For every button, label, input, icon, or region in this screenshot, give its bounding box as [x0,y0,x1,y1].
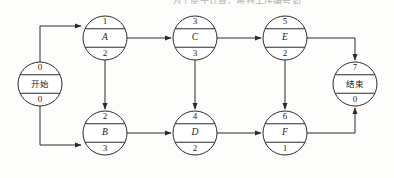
node-top-number: 5 [283,16,288,26]
edge-start-to-b [40,106,81,145]
node-label: C [192,32,199,42]
node-label: B [102,127,108,137]
node-bottom-number: 1 [283,143,288,153]
node-bottom-number: 2 [283,48,288,58]
node-top-number: 4 [193,111,198,121]
network-diagram-svg: 0开始01A23C35E22B34D26F17结束0 [0,0,394,178]
node-top-number: 2 [103,111,108,121]
node-e[interactable]: 5E2 [263,16,307,60]
node-top-number: 7 [353,62,358,72]
node-c[interactable]: 3C3 [173,16,217,60]
node-bottom-number: 3 [193,48,198,58]
node-label: E [281,32,288,42]
node-bottom-number: 2 [103,48,108,58]
nodes-layer: 0开始01A23C35E22B34D26F17结束0 [18,16,377,155]
node-label: 开始 [31,79,49,89]
edge-f-to-end [307,108,355,133]
edge-start-to-a [40,26,81,62]
node-label: D [191,127,199,137]
edge-e-to-end [307,38,355,60]
node-f[interactable]: 6F1 [263,111,307,155]
node-end[interactable]: 7结束0 [333,62,377,106]
node-bottom-number: 2 [193,143,198,153]
node-a[interactable]: 1A2 [83,16,127,60]
node-bottom-number: 3 [103,143,108,153]
node-bottom-number: 0 [353,94,358,104]
node-bottom-number: 0 [38,94,43,104]
node-b[interactable]: 2B3 [83,111,127,155]
node-label: 结束 [346,79,364,89]
node-start[interactable]: 0开始0 [18,62,62,106]
network-diagram-canvas: 为了便于计算，将各工序编号如下图。 0开始01A23C35E22B34D26F1… [0,0,394,178]
node-d[interactable]: 4D2 [173,111,217,155]
node-label: F [281,127,288,137]
node-top-number: 0 [38,62,43,72]
node-top-number: 1 [103,16,108,26]
node-top-number: 6 [283,111,288,121]
node-label: A [101,32,108,42]
node-top-number: 3 [193,16,198,26]
